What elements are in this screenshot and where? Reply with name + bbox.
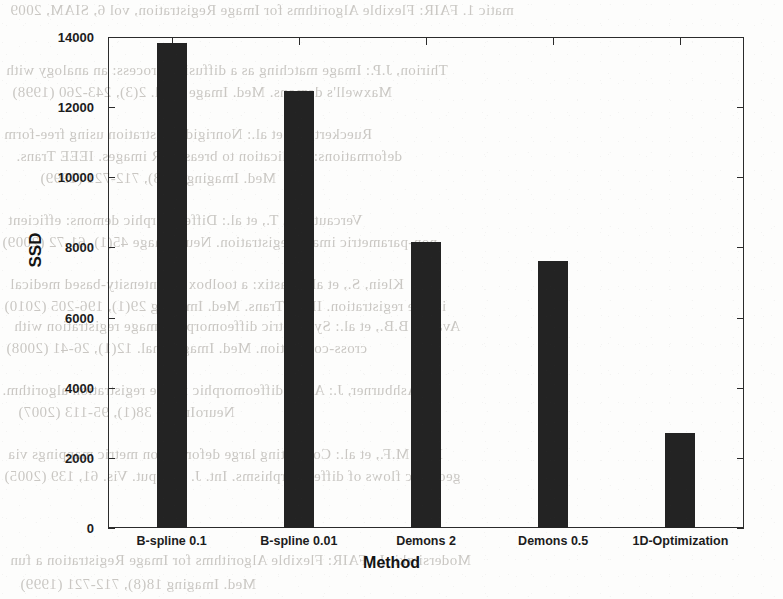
bar [538, 261, 568, 528]
bars-container [108, 37, 744, 528]
y-axis-tick-label: 14000 [58, 30, 94, 45]
x-axis-tick-label: 1D-Optimization [632, 534, 728, 548]
x-axis-tick-label: B-spline 0.1 [137, 534, 207, 548]
y-axis-tick-label: 2000 [65, 450, 94, 465]
y-axis-tick-label: 12000 [58, 100, 94, 115]
x-axis-tick-label: B-spline 0.01 [260, 534, 337, 548]
y-axis-tick [108, 528, 115, 529]
bar [665, 433, 695, 528]
y-axis-tick-label: 10000 [58, 170, 94, 185]
y-axis-title: SSD [26, 190, 46, 310]
bar-chart-figure: 02000400060008000100001200014000 B-splin… [0, 0, 783, 599]
scanned-page: matic 1. FAIR: Flexible Algorithms for I… [0, 0, 783, 599]
y-axis-tick-label: 4000 [65, 380, 94, 395]
y-axis-tick-label: 8000 [65, 240, 94, 255]
bar [157, 43, 187, 528]
bar [411, 242, 441, 528]
y-axis-tick-right [737, 528, 744, 529]
bar [284, 91, 314, 528]
x-axis-title: Method [0, 554, 783, 572]
x-axis-tick-label: Demons 0.5 [518, 534, 588, 548]
x-axis-tick-label: Demons 2 [396, 534, 456, 548]
y-axis-tick-label: 0 [87, 521, 94, 536]
y-axis-tick-label: 6000 [65, 310, 94, 325]
